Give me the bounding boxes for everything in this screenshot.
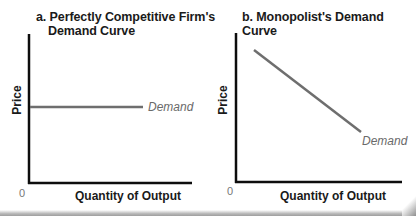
- page-bottom-shadow: [0, 210, 416, 216]
- panel-b-demand-curve: [254, 50, 361, 132]
- chart-plot-area: [0, 0, 416, 216]
